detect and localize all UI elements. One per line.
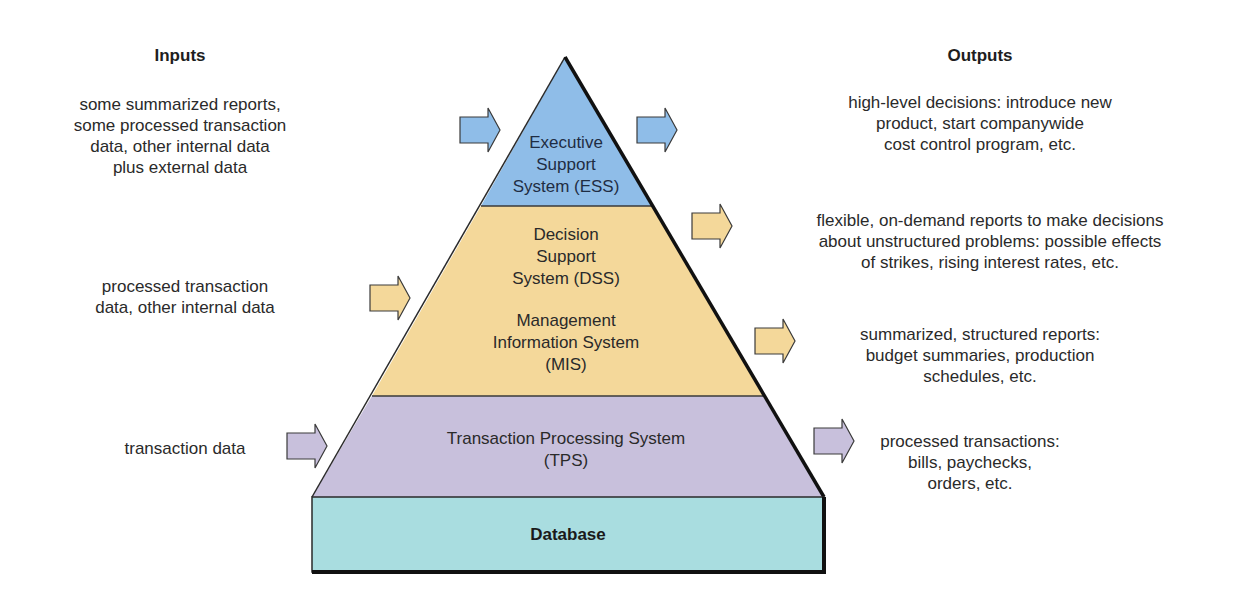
inputs-heading: Inputs (120, 46, 240, 66)
ess-label: Executive Support System (ESS) (466, 132, 666, 198)
outputs-heading: Outputs (920, 46, 1040, 66)
database-label: Database (468, 524, 668, 546)
input-ess-text: some summarized reports, some processed … (20, 94, 340, 178)
input-tps-text: transaction data (90, 438, 280, 459)
output-tps-text: processed transactions: bills, paychecks… (850, 431, 1090, 494)
tps-label: Transaction Processing System (TPS) (396, 428, 736, 472)
input-dss-mis-text: processed transaction data, other intern… (40, 276, 330, 318)
arrow-right-icon (755, 319, 795, 363)
arrow-right-icon (287, 424, 327, 468)
mis-label: Management Information System (MIS) (446, 310, 686, 376)
arrow-right-icon (692, 204, 732, 248)
arrow-right-icon (370, 276, 410, 320)
output-ess-text: high-level decisions: introduce new prod… (780, 92, 1180, 155)
dss-label: Decision Support System (DSS) (466, 224, 666, 290)
output-mis-text: summarized, structured reports: budget s… (810, 324, 1150, 387)
arrow-right-icon (814, 419, 854, 463)
output-dss-text: flexible, on-demand reports to make deci… (750, 210, 1230, 273)
